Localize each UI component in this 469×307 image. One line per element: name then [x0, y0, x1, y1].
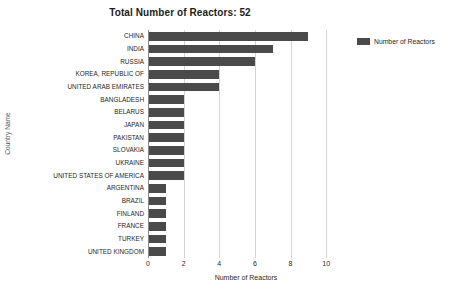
x-axis-title: Number of Reactors — [148, 274, 344, 281]
y-axis-tick-label: SLOVAKIA — [0, 146, 144, 154]
y-axis-tick-label: BELARUS — [0, 108, 144, 116]
x-axis-tick-labels: 0246810 — [0, 260, 469, 274]
y-axis-tick-label: RUSSIA — [0, 58, 144, 66]
y-axis-tick-label: UNITED STATES OF AMERICA — [0, 172, 144, 180]
legend-swatch-number-of-reactors — [357, 38, 370, 45]
x-axis-tick-label: 6 — [240, 260, 270, 267]
x-axis-tick-label: 0 — [133, 260, 163, 267]
x-axis-tick-label: 10 — [311, 260, 341, 267]
y-axis-tick-label: UKRAINE — [0, 159, 144, 167]
y-axis-tick-label: UNITED KINGDOM — [0, 248, 144, 256]
y-axis-tick-label: FINLAND — [0, 210, 144, 218]
y-axis-tick-label: ARGENTINA — [0, 184, 144, 192]
y-axis-tick-label: TURKEY — [0, 235, 144, 243]
y-axis-tick-label: UNITED ARAB EMIRATES — [0, 83, 144, 91]
y-axis-tick-label: BANGLADESH — [0, 96, 144, 104]
y-axis-title: Country Name — [4, 89, 11, 179]
y-axis-tick-label: FRANCE — [0, 222, 144, 230]
x-axis-tick-label: 2 — [169, 260, 199, 267]
y-axis-tick-label: CHINA — [0, 32, 144, 40]
y-axis-tick-label: INDIA — [0, 45, 144, 53]
chart-title: Total Number of Reactors: 52 — [0, 7, 360, 18]
x-axis-tick-label: 4 — [204, 260, 234, 267]
y-axis-tick-label: BRAZIL — [0, 197, 144, 205]
legend-label-number-of-reactors: Number of Reactors — [374, 38, 435, 45]
y-axis-tick-labels: CHINAINDIARUSSIAKOREA, REPUBLIC OFUNITED… — [0, 30, 469, 258]
y-axis-tick-label: JAPAN — [0, 121, 144, 129]
y-axis-tick-label: KOREA, REPUBLIC OF — [0, 70, 144, 78]
bar-chart: Total Number of Reactors: 52 CHINAINDIAR… — [0, 0, 469, 307]
y-axis-tick-label: PAKISTAN — [0, 134, 144, 142]
legend: Number of Reactors — [357, 38, 435, 45]
x-axis-tick-label: 8 — [276, 260, 306, 267]
